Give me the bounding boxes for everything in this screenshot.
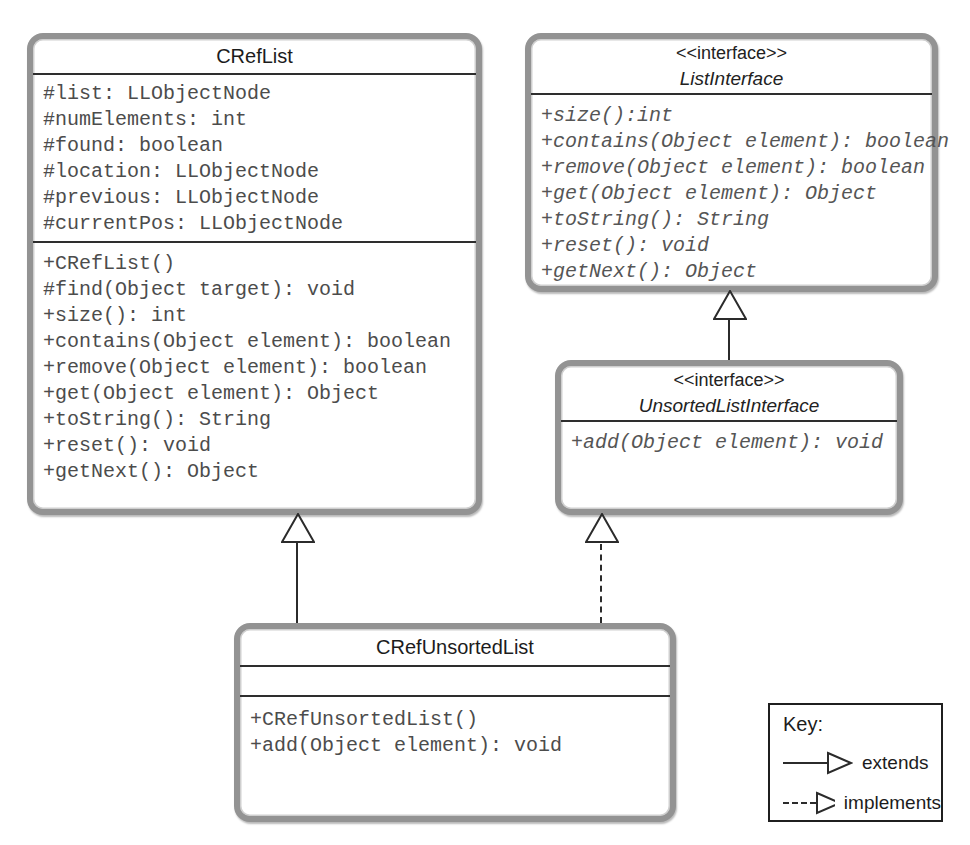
class-header-unsortedlistinterface: <<interface>> UnsortedListInterface (561, 366, 897, 422)
member-line: +add(Object element): void (571, 430, 897, 456)
member-line: +contains(Object element): boolean (541, 129, 932, 155)
member-line: +size(): int (43, 303, 476, 329)
stereotype-listinterface: <<interface>> (531, 41, 932, 66)
extends-connector-unsortedlistinterface-to-listinterface (728, 319, 730, 360)
attributes-compartment-crefunsortedlist (240, 667, 670, 697)
member-line: +get(Object element): Object (43, 381, 476, 407)
methods-compartment-creflist: +CRefList()#find(Object target): void+si… (33, 243, 476, 509)
implements-connector-crefunsortedlist-to-unsortedlistinterface (600, 544, 602, 623)
methods-compartment-crefunsortedlist: +CRefUnsortedList()+add(Object element):… (240, 697, 670, 816)
member-line: #previous: LLObjectNode (43, 185, 476, 211)
class-box-creflist: CRefList #list: LLObjectNode#numElements… (27, 33, 482, 515)
uml-class-diagram: CRefList #list: LLObjectNode#numElements… (0, 0, 970, 845)
methods-compartment-unsortedlistinterface: +add(Object element): void (561, 422, 897, 509)
legend-row-implements: implements (770, 790, 941, 816)
hollow-triangle-arrowhead-implements-unsortedlistinterface (585, 513, 619, 543)
class-name-unsortedlistinterface: UnsortedListInterface (561, 393, 897, 419)
member-line: #currentPos: LLObjectNode (43, 211, 476, 237)
member-line: +CRefUnsortedList() (250, 707, 670, 733)
member-line: +toString(): String (541, 207, 932, 233)
member-line: +size():int (541, 103, 932, 129)
member-line: +contains(Object element): boolean (43, 329, 476, 355)
class-box-crefunsortedlist: CRefUnsortedList +CRefUnsortedList()+add… (234, 623, 676, 822)
dashed-line-sample (783, 802, 816, 804)
member-line: +CRefList() (43, 251, 476, 277)
member-line: +get(Object element): Object (541, 181, 932, 207)
legend-label-extends: extends (862, 752, 929, 774)
legend-label-implements: implements (844, 792, 941, 814)
member-line: #location: LLObjectNode (43, 159, 476, 185)
member-line: #find(Object target): void (43, 277, 476, 303)
hollow-triangle-right-icon (816, 791, 835, 815)
member-line: #found: boolean (43, 133, 476, 159)
member-line: +add(Object element): void (250, 733, 670, 759)
hollow-triangle-arrowhead-extends-listinterface (713, 290, 747, 320)
member-line: #list: LLObjectNode (43, 81, 476, 107)
extends-connector-crefunsortedlist-to-creflist (296, 542, 298, 623)
member-line: +getNext(): Object (541, 259, 932, 285)
class-name-creflist: CRefList (33, 39, 476, 75)
attributes-compartment-creflist: #list: LLObjectNode#numElements: int#fou… (33, 75, 476, 243)
legend-title: Key: (770, 705, 941, 736)
stereotype-unsortedlistinterface: <<interface>> (561, 368, 897, 393)
member-line: +reset(): void (43, 433, 476, 459)
class-box-unsortedlistinterface: <<interface>> UnsortedListInterface +add… (555, 360, 903, 515)
hollow-triangle-arrowhead-extends-creflist (281, 513, 315, 543)
class-box-listinterface: <<interface>> ListInterface +size():int+… (525, 33, 938, 292)
hollow-triangle-right-icon (827, 751, 853, 775)
legend-box: Key: extends implements (768, 703, 943, 822)
class-name-listinterface: ListInterface (531, 66, 932, 92)
methods-compartment-listinterface: +size():int+contains(Object element): bo… (531, 95, 932, 286)
member-line: +toString(): String (43, 407, 476, 433)
member-line: +reset(): void (541, 233, 932, 259)
member-line: +getNext(): Object (43, 459, 476, 485)
member-line: #numElements: int (43, 107, 476, 133)
legend-row-extends: extends (770, 750, 941, 776)
class-header-listinterface: <<interface>> ListInterface (531, 39, 932, 95)
member-line: +remove(Object element): boolean (541, 155, 932, 181)
class-name-crefunsortedlist: CRefUnsortedList (240, 629, 670, 667)
solid-line-sample (783, 762, 827, 764)
member-line: +remove(Object element): boolean (43, 355, 476, 381)
